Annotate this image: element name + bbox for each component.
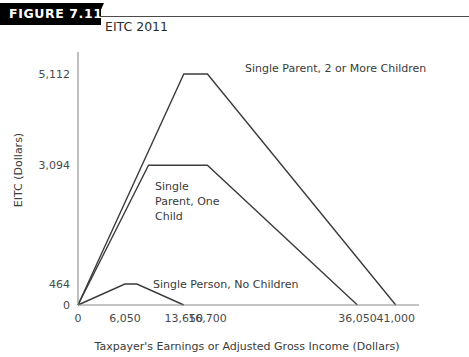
figure-header: FIGURE 7.11 EITC 2011: [0, 0, 469, 34]
curve-series-0: [78, 74, 396, 305]
chart-area: 06,05013,65016,70036,05041,000 04643,094…: [0, 30, 469, 357]
x-tick-labels: 06,05013,65016,70036,05041,000: [75, 312, 416, 325]
series-annotation-0: Single Parent, 2 or More Children: [245, 62, 426, 75]
series-annotations: Single Parent, 2 or More ChildrenSingleP…: [153, 62, 426, 291]
series-annotation-1: Parent, One: [155, 195, 220, 208]
figure-number-label: FIGURE 7.11: [9, 6, 103, 21]
curves-group: [78, 74, 396, 305]
x-tick-label: 41,000: [377, 312, 416, 325]
y-tick-label: 464: [49, 278, 70, 291]
series-annotation-1: Child: [155, 210, 183, 223]
y-tick-label: 5,112: [39, 68, 71, 81]
x-tick-label: 0: [75, 312, 82, 325]
eitc-line-chart: 06,05013,65016,70036,05041,000 04643,094…: [0, 30, 469, 357]
axes-group: [78, 52, 419, 305]
y-tick-label: 0: [63, 299, 70, 312]
y-tick-labels: 04643,0945,112: [39, 68, 71, 312]
x-axis-title: Taxpayer's Earnings or Adjusted Gross In…: [94, 340, 400, 353]
y-axis-title: EITC (Dollars): [12, 133, 25, 207]
header-divider-rule: [100, 16, 469, 17]
x-tick-label: 16,700: [188, 312, 227, 325]
x-tick-label: 36,050: [338, 312, 377, 325]
x-tick-label: 6,050: [109, 312, 141, 325]
series-annotation-2: Single Person, No Children: [153, 278, 299, 291]
y-tick-label: 3,094: [39, 159, 71, 172]
series-annotation-1: Single: [155, 180, 189, 193]
